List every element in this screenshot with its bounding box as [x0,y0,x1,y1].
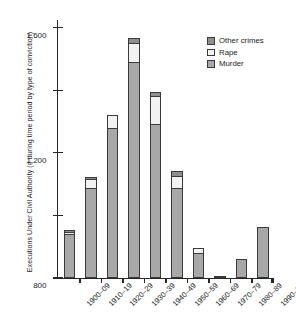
y-tick-inner-0 [58,277,63,278]
execution-statistics-bar-chart: Executions Under Civil Authority (# duri… [0,0,296,324]
bar-segment-murder [64,234,76,278]
y-tick-0: 0 [53,277,58,278]
bar-1950–59[interactable] [171,171,183,278]
bar-segment-murder [214,276,226,278]
legend-item-rape[interactable]: Rape [207,47,291,59]
bar-1900–09[interactable] [64,230,76,278]
bar-segment-murder [128,62,140,278]
y-tick-inner-1200 [58,90,63,91]
bar-1920–29[interactable] [107,115,119,278]
y-axis-line [57,20,58,278]
bar-segment-murder [150,124,162,278]
legend-label: Rape [219,48,238,57]
y-tick-inner-400 [58,215,63,216]
legend-swatch-icon [207,60,215,68]
bar-segment-murder [107,128,119,278]
bar-segment-rape [128,43,140,62]
bar-segment-rape [150,96,162,124]
bar-1970–79[interactable] [214,276,226,278]
bar-1910–19[interactable] [85,177,97,278]
y-tick-inner-800 [58,152,63,153]
bar-1960–69[interactable] [193,248,205,278]
y-tick-800: 800 [53,152,58,153]
y-tick-inner-1600 [58,27,63,28]
legend-swatch-icon [207,49,215,57]
bar-1930–39[interactable] [128,38,140,278]
bar-1980–89[interactable] [236,259,248,278]
bar-segment-murder [236,259,248,278]
y-tick-label-1600: 1,600 [26,31,46,40]
bar-segment-rape [85,179,97,188]
bar-segment-murder [257,227,269,278]
bar-1940–49[interactable] [150,92,162,278]
legend-label: Other crimes [219,36,264,45]
x-tick-1990–98 [273,278,274,283]
y-axis-title: Executions Under Civil Authority (# duri… [26,18,34,286]
y-tick-400: 400 [53,215,58,216]
chart-legend: Other crimesRapeMurder [207,35,291,70]
bar-segment-murder [85,188,97,278]
legend-item-other-crimes[interactable]: Other crimes [207,35,291,47]
legend-item-murder[interactable]: Murder [207,58,291,70]
bar-1990–98[interactable] [257,227,269,278]
y-tick-1600: 1,600 [53,27,58,28]
y-tick-1200: 1,200 [53,90,58,91]
bar-segment-murder [171,188,183,278]
bar-segment-murder [193,253,205,278]
bar-segment-rape [171,176,183,188]
bar-segment-rape [107,115,119,128]
x-axis-tick-labels: 1900–091910–191920–291930–391940–491950–… [57,281,272,324]
legend-swatch-icon [207,37,215,45]
y-tick-label-1200: 1,200 [26,156,46,165]
y-tick-label-800: 800 [33,281,46,290]
legend-label: Murder [219,59,244,68]
